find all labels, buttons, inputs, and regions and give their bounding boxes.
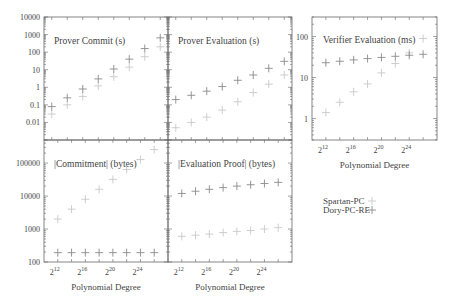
- y-tick-label: 10: [32, 66, 40, 75]
- panel-prover-evaluation-s: Prover Evaluation (s): [168, 17, 292, 140]
- data-point-spartan-pc: [377, 69, 385, 77]
- y-tick-label: 100000: [16, 159, 40, 168]
- y-tick-label: 100: [28, 48, 40, 57]
- y-tick-label: 10000: [20, 13, 40, 22]
- legend-label: Dory-PC-RE: [323, 205, 371, 215]
- data-point-spartan-pc: [150, 146, 158, 154]
- x-tick-label: 224: [132, 266, 142, 277]
- data-point-spartan-pc: [136, 156, 144, 164]
- panel-title: Prover Commit (s): [54, 36, 125, 47]
- x-axis-title: Polynomial Degree: [195, 282, 265, 292]
- data-point-dory-pc-re: [136, 249, 144, 257]
- x-tick-label: 220: [229, 266, 239, 277]
- data-point-spartan-pc: [81, 195, 89, 203]
- data-point-dory-pc-re: [205, 185, 213, 193]
- data-point-dory-pc-re: [364, 55, 372, 63]
- data-point-dory-pc-re: [260, 179, 268, 187]
- x-tick-label: 220: [105, 266, 115, 277]
- data-point-spartan-pc: [125, 63, 133, 71]
- data-point-spartan-pc: [205, 230, 213, 238]
- data-point-dory-pc-re: [79, 85, 87, 93]
- data-point-dory-pc-re: [247, 181, 255, 189]
- y-tick-label: 1000: [24, 225, 40, 234]
- data-point-dory-pc-re: [265, 64, 273, 72]
- data-point-spartan-pc: [79, 92, 87, 100]
- y-tick-label: 1: [36, 83, 40, 92]
- data-point-dory-pc-re: [377, 53, 385, 61]
- data-point-dory-pc-re: [95, 249, 103, 257]
- data-point-dory-pc-re: [322, 59, 330, 67]
- data-point-dory-pc-re: [125, 55, 133, 63]
- data-point-dory-pc-re: [123, 249, 131, 257]
- data-point-dory-pc-re: [110, 65, 118, 73]
- y-tick-label: 10000: [20, 192, 40, 201]
- x-tick-label: 212: [50, 266, 60, 277]
- data-point-dory-pc-re: [178, 189, 186, 197]
- data-point-dory-pc-re: [218, 83, 226, 91]
- data-point-spartan-pc: [203, 113, 211, 121]
- data-point-spartan-pc: [218, 106, 226, 114]
- x-tick-label: 224: [401, 144, 411, 155]
- y-tick-label: 1: [304, 115, 308, 124]
- data-point-spartan-pc: [247, 227, 255, 235]
- data-point-spartan-pc: [280, 71, 288, 79]
- data-point-dory-pc-re: [234, 76, 242, 84]
- data-point-spartan-pc: [94, 82, 102, 90]
- data-point-spartan-pc: [322, 109, 330, 117]
- y-tick-label: 100: [296, 33, 308, 42]
- data-point-dory-pc-re: [187, 91, 195, 99]
- data-point-spartan-pc: [219, 229, 227, 237]
- data-point-spartan-pc: [274, 224, 282, 232]
- data-point-spartan-pc: [54, 215, 62, 223]
- data-point-spartan-pc: [172, 124, 180, 132]
- x-axis-title: Polynomial Degree: [340, 160, 410, 170]
- data-point-dory-pc-re: [391, 52, 399, 60]
- data-point-spartan-pc: [336, 98, 344, 106]
- panel-prover-commit-s: 0.010.1110100100010000Prover Commit (s): [20, 13, 168, 140]
- data-point-spartan-pc: [350, 88, 358, 96]
- data-point-spartan-pc: [156, 43, 164, 51]
- data-point-spartan-pc: [260, 225, 268, 233]
- data-point-dory-pc-re: [419, 50, 427, 58]
- data-point-dory-pc-re: [249, 71, 257, 79]
- data-point-dory-pc-re: [68, 249, 76, 257]
- panel-commitment-bytes: 100100010000100000212216220224Polynomial…: [16, 140, 168, 292]
- data-point-dory-pc-re: [109, 249, 117, 257]
- data-point-dory-pc-re: [150, 249, 158, 257]
- legend-marker-icon: [368, 197, 376, 205]
- data-point-dory-pc-re: [192, 187, 200, 195]
- y-tick-label: 100: [28, 258, 40, 267]
- x-tick-label: 216: [201, 266, 211, 277]
- y-tick-label: 1000: [24, 31, 40, 40]
- data-point-spartan-pc: [95, 185, 103, 193]
- data-point-dory-pc-re: [156, 34, 164, 42]
- data-point-dory-pc-re: [94, 75, 102, 83]
- data-point-spartan-pc: [141, 53, 149, 61]
- panel-title: Verifier Evaluation (ms): [323, 35, 415, 46]
- data-point-spartan-pc: [178, 232, 186, 240]
- x-axis-title: Polynomial Degree: [71, 282, 141, 292]
- legend: Spartan-PCDory-PC-RE: [323, 196, 376, 215]
- data-point-spartan-pc: [68, 205, 76, 213]
- panel-title: |Evaluation Proof| (bytes): [178, 159, 275, 170]
- panel-title: Prover Evaluation (s): [178, 36, 259, 47]
- x-tick-label: 224: [256, 266, 266, 277]
- data-point-spartan-pc: [234, 98, 242, 106]
- x-tick-label: 216: [346, 144, 356, 155]
- x-tick-label: 212: [318, 144, 328, 155]
- data-point-dory-pc-re: [336, 57, 344, 65]
- y-tick-label: 0.1: [30, 101, 40, 110]
- panel-verifier-evaluation-ms: 110100212216220224Polynomial DegreeVerif…: [296, 17, 437, 170]
- y-tick-label: 0.01: [26, 118, 40, 127]
- data-point-dory-pc-re: [141, 45, 149, 53]
- data-point-spartan-pc: [391, 60, 399, 68]
- data-point-spartan-pc: [48, 110, 56, 118]
- data-point-dory-pc-re: [54, 249, 62, 257]
- data-point-dory-pc-re: [280, 57, 288, 65]
- data-point-dory-pc-re: [219, 184, 227, 192]
- panel-title: |Commitment| (bytes): [54, 159, 137, 170]
- data-point-spartan-pc: [364, 80, 372, 88]
- data-point-dory-pc-re: [274, 178, 282, 186]
- data-point-spartan-pc: [63, 101, 71, 109]
- data-point-spartan-pc: [187, 118, 195, 126]
